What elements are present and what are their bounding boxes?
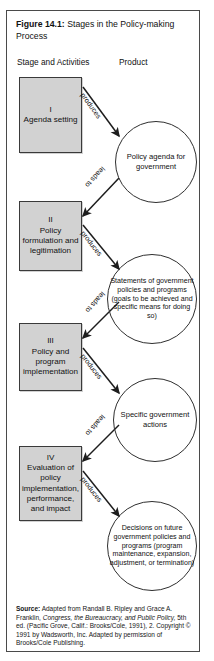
product-circle-1-text: Policy agenda for government bbox=[116, 152, 196, 171]
stage-box-1[interactable]: I Agenda setting bbox=[19, 77, 82, 153]
column-headers: Stage and Activities Product bbox=[16, 57, 196, 69]
stage-box-1-roman: I bbox=[49, 105, 51, 115]
source-note-title: Congress, the Bureaucracy, and Public Po… bbox=[43, 614, 176, 621]
source-note-label: Source: bbox=[16, 605, 40, 612]
figure-frame: Figure 14.1: Stages in the Policy-making… bbox=[6, 10, 200, 652]
product-circle-3-text: Specific government actions bbox=[114, 410, 196, 429]
figure-caption: Figure 14.1: Stages in the Policy-making… bbox=[16, 19, 194, 42]
column-header-product: Product bbox=[119, 57, 148, 67]
stage-box-1-text: Agenda setting bbox=[21, 115, 79, 125]
arrow-label-produces-2: produces bbox=[79, 229, 104, 258]
stage-box-2-roman: II bbox=[48, 215, 53, 225]
source-note: Source: Adapted from Randall B. Ripley a… bbox=[16, 605, 192, 648]
product-circle-2-text: Statements of government policies and pr… bbox=[108, 277, 196, 322]
product-circle-4-text: Decisions on future government policies … bbox=[108, 524, 196, 569]
product-circle-1[interactable]: Policy agenda for government bbox=[115, 121, 197, 203]
stage-box-4-roman: IV bbox=[47, 453, 55, 463]
product-circle-2[interactable]: Statements of government policies and pr… bbox=[107, 254, 197, 344]
stage-box-4[interactable]: IV Evaluation of policy implementation, … bbox=[19, 446, 82, 521]
arrow-label-leads-to-2: leads to bbox=[83, 290, 107, 315]
stage-box-2[interactable]: II Policy formulation and legitimation bbox=[19, 201, 82, 271]
stage-box-2-text: Policy formulation and legitimation bbox=[20, 226, 81, 257]
arrow-label-leads-to-3: leads to bbox=[83, 413, 107, 438]
figure-caption-label: Figure 14.1: bbox=[16, 19, 65, 29]
product-circle-3[interactable]: Specific government actions bbox=[113, 378, 197, 462]
product-circle-4[interactable]: Decisions on future government policies … bbox=[107, 501, 197, 591]
arrow-label-produces-1: produces bbox=[79, 91, 104, 120]
arrow-label-leads-to-1: leads to bbox=[83, 165, 107, 190]
arrow-label-produces-4: produces bbox=[79, 475, 104, 504]
arrow-label-produces-3: produces bbox=[79, 352, 104, 381]
stage-box-3-text: Policy and program implementation bbox=[20, 347, 81, 378]
stage-box-4-text: Evaluation of policy implementation, per… bbox=[20, 463, 81, 514]
column-header-stage-and-activities: Stage and Activities bbox=[17, 57, 89, 67]
stage-box-3-roman: III bbox=[47, 336, 54, 346]
stage-box-3[interactable]: III Policy and program implementation bbox=[19, 323, 82, 391]
